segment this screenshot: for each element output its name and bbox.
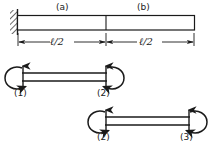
dimension-label-right: ℓ/2 (139, 36, 153, 47)
beam-assembly (10, 9, 195, 46)
beam-outline (18, 16, 195, 31)
segment-label-b: (b) (137, 2, 150, 12)
member-bar-2-3 (105, 117, 190, 125)
free-body-diagram-member-2-3 (88, 110, 207, 133)
moment-arc-node-1 (5, 67, 22, 89)
moment-arc-node-3 (190, 111, 207, 133)
node-1-end-forces (5, 66, 23, 89)
moment-arc-node-2-lower (88, 111, 105, 133)
moment-arc-node-2-upper (107, 67, 124, 89)
node-label-2-upper: (2) (97, 88, 110, 98)
node-label-2-lower: (2) (97, 132, 110, 142)
fixed-support-hatching (10, 9, 18, 35)
dimension-label-left: ℓ/2 (50, 36, 64, 47)
node-label-1: (1) (14, 88, 27, 98)
node-2-end-forces-upper (106, 66, 124, 89)
node-2-end-forces-lower (88, 110, 106, 133)
dimension-extension-lines (18, 33, 194, 46)
node-3-end-forces (189, 110, 207, 133)
node-label-3: (3) (180, 132, 193, 142)
segment-label-a: (a) (56, 2, 69, 12)
free-body-diagram-member-1-2 (5, 66, 124, 89)
member-bar-1-2 (22, 73, 107, 81)
